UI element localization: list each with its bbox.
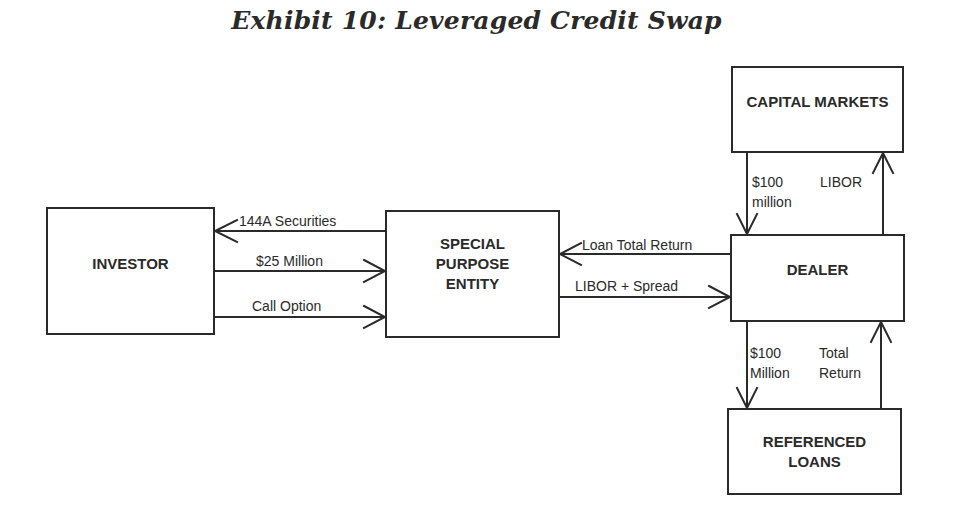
label-libor: LIBOR (820, 172, 862, 192)
label-loan-total-return: Loan Total Return (582, 235, 692, 255)
label-total-return: Total Return (819, 343, 861, 383)
arrow-libor (873, 153, 893, 234)
label-call-option: Call Option (252, 296, 321, 316)
label-libor-spread: LIBOR + Spread (575, 276, 678, 296)
label-144a-securities: 144A Securities (239, 211, 336, 231)
flow-arrows (0, 0, 953, 526)
label-100-million-rl: $100 Million (750, 343, 790, 383)
arrow-total-return (871, 322, 891, 408)
label-25-million: $25 Million (256, 251, 323, 271)
label-100-million-cm: $100 million (752, 172, 792, 212)
